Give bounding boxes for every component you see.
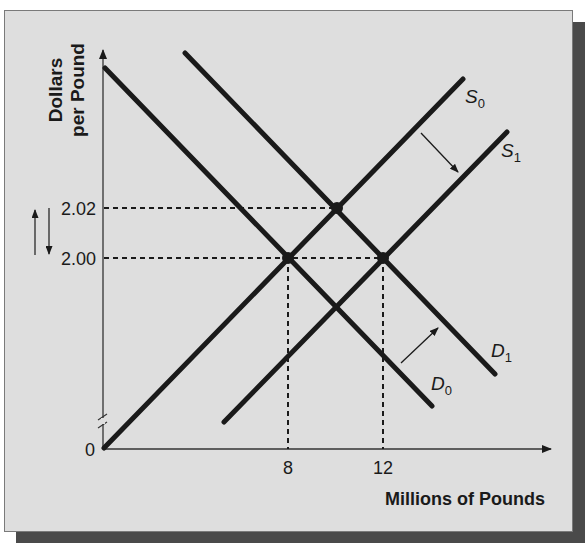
curve-d1 (185, 53, 495, 374)
label-s0: S0 (465, 86, 485, 111)
label-d0: D0 (431, 373, 452, 398)
supply-shift-arrow-icon (421, 133, 458, 172)
equilibrium-point-s0-d1 (331, 202, 343, 214)
demand-shift-arrow-icon (401, 328, 438, 363)
x-axis-title: Millions of Pounds (385, 489, 545, 509)
equilibrium-point-s0-d0 (282, 252, 294, 264)
y-axis-title-line1: Dollars (45, 58, 66, 122)
label-s1: S1 (501, 140, 521, 165)
x-tick-8: 8 (283, 458, 293, 478)
curve-s0 (104, 79, 463, 448)
x-tick-12: 12 (373, 458, 393, 478)
origin-label: 0 (85, 440, 95, 460)
y-tick-2-02: 2.02 (61, 199, 96, 219)
equilibrium-point-s1-d1 (377, 252, 389, 264)
curve-s1 (224, 132, 507, 422)
label-d1: D1 (491, 340, 512, 365)
supply-demand-chart: Dollars per Pound 2.02 2.00 0 8 12 Milli… (0, 0, 587, 543)
y-axis-title-line2: per Pound (67, 43, 88, 137)
curve-d0 (105, 68, 432, 406)
y-tick-2-00: 2.00 (61, 249, 96, 269)
guide-lines (104, 208, 383, 449)
